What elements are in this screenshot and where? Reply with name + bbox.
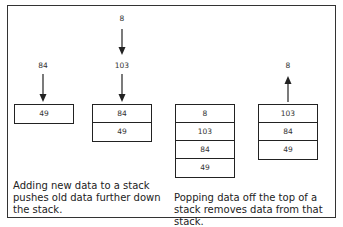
stack-three-items: 103 84 49 <box>258 104 318 160</box>
stack-cell: 49 <box>93 123 151 141</box>
stack-cell: 84 <box>259 123 317 141</box>
stack-cell: 84 <box>93 105 151 123</box>
stack-cell: 49 <box>176 159 234 177</box>
stack-one-item: 49 <box>14 104 74 124</box>
push-value-8: 8 <box>107 14 137 23</box>
stack-cell: 103 <box>259 105 317 123</box>
pop-caption: Popping data off the top of a stack remo… <box>174 192 336 227</box>
push-value-84: 84 <box>28 61 58 70</box>
popped-value-8: 8 <box>273 61 303 70</box>
push-caption: Adding new data to a stack pushes old da… <box>13 180 163 216</box>
push-value-103: 103 <box>107 61 137 70</box>
stack-two-items: 84 49 <box>92 104 152 142</box>
down-arrow-icon <box>38 72 48 104</box>
stack-cell: 49 <box>15 105 73 123</box>
down-arrow-icon <box>117 27 127 57</box>
down-arrow-icon <box>117 72 127 104</box>
stack-four-items: 8 103 84 49 <box>175 104 235 178</box>
stack-cell: 8 <box>176 105 234 123</box>
up-arrow-icon <box>283 74 293 104</box>
stack-cell: 103 <box>176 123 234 141</box>
stack-cell: 84 <box>176 141 234 159</box>
stack-cell: 49 <box>259 141 317 159</box>
